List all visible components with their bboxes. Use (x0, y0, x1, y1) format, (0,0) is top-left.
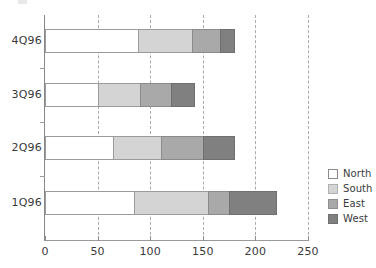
x-tick-150 (203, 236, 204, 241)
legend-swatch-south-icon (328, 184, 338, 194)
legend-label-north: North (343, 168, 371, 179)
bar-segment-1Q96-east (208, 191, 230, 215)
bar-4Q96 (0, 29, 376, 53)
legend-item-south[interactable]: South (328, 181, 376, 196)
bar-segment-4Q96-west (220, 29, 236, 53)
legend-swatch-east-icon (328, 199, 338, 209)
bar-segment-4Q96-south (138, 29, 194, 53)
stacked-bar-chart: 050100150200250 4Q963Q962Q961Q96 NorthSo… (0, 0, 376, 268)
bar-2Q96 (0, 136, 376, 160)
legend-swatch-west-icon (328, 214, 338, 224)
bar-segment-2Q96-south (113, 136, 161, 160)
x-tick-label-100: 100 (130, 245, 170, 258)
bar-segment-2Q96-north (45, 136, 114, 160)
top-edge-artifact (18, 0, 27, 4)
bar-segment-3Q96-north (45, 83, 99, 107)
x-axis-line (44, 240, 309, 241)
bar-segment-4Q96-east (192, 29, 220, 53)
x-tick-100 (150, 236, 151, 241)
x-tick-label-150: 150 (183, 245, 223, 258)
bar-segment-3Q96-south (98, 83, 141, 107)
legend-label-south: South (343, 183, 373, 194)
legend-label-west: West (343, 213, 368, 224)
bar-1Q96 (0, 191, 376, 215)
legend-label-east: East (343, 198, 365, 209)
x-tick-label-200: 200 (235, 245, 275, 258)
x-tick-50 (98, 236, 99, 241)
bar-segment-3Q96-east (140, 83, 173, 107)
y-minor-tick-2 (40, 122, 45, 123)
bar-segment-1Q96-south (134, 191, 209, 215)
y-minor-tick-1 (40, 68, 45, 69)
legend-item-east[interactable]: East (328, 196, 376, 211)
bar-segment-2Q96-east (161, 136, 204, 160)
legend-item-north[interactable]: North (328, 166, 376, 181)
chart-legend: NorthSouthEastWest (328, 166, 376, 226)
legend-swatch-north-icon (328, 169, 338, 179)
bar-segment-4Q96-north (45, 29, 139, 53)
bar-segment-2Q96-west (203, 136, 236, 160)
y-minor-tick-3 (40, 176, 45, 177)
x-tick-250 (308, 236, 309, 241)
bar-3Q96 (0, 83, 376, 107)
x-tick-label-50: 50 (78, 245, 118, 258)
x-tick-label-250: 250 (288, 245, 328, 258)
bar-segment-1Q96-west (229, 191, 277, 215)
bar-segment-1Q96-north (45, 191, 135, 215)
x-tick-label-0: 0 (25, 245, 65, 258)
bar-segment-3Q96-west (171, 83, 195, 107)
x-tick-0 (45, 236, 46, 241)
legend-item-west[interactable]: West (328, 211, 376, 226)
x-tick-200 (255, 236, 256, 241)
